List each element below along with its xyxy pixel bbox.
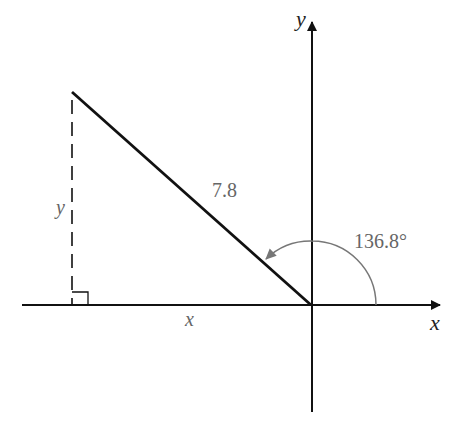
- horizontal-leg-label: x: [185, 308, 194, 331]
- right-angle-marker: [72, 292, 88, 305]
- x-axis-label: x: [430, 310, 440, 336]
- hypotenuse: [72, 92, 311, 305]
- hypotenuse-label: 7.8: [212, 179, 237, 202]
- vertical-leg-label: y: [56, 196, 65, 219]
- diagram-canvas: y x 7.8 136.8° y x: [0, 0, 457, 425]
- y-axis-label: y: [296, 6, 306, 32]
- angle-label: 136.8°: [354, 230, 407, 253]
- triangle-diagram: [0, 0, 457, 425]
